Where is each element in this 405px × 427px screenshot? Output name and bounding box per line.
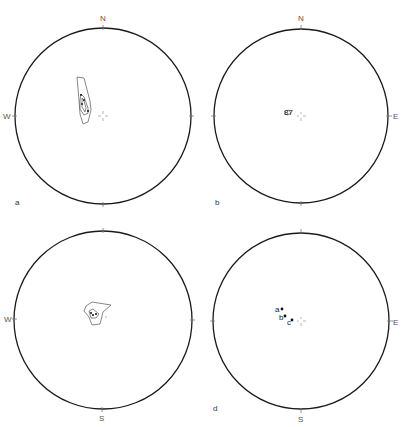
primitive-circle (15, 28, 191, 204)
contour-polygons (84, 302, 111, 325)
primitive-circle (214, 29, 388, 203)
point-b (284, 315, 287, 318)
west-label: W (3, 112, 11, 121)
data-points (90, 312, 97, 316)
stereonet-panel-c: W S (4, 228, 195, 423)
point-label-c: c (287, 318, 291, 327)
point-a (281, 308, 284, 311)
panel-label-b: b (215, 198, 220, 207)
south-label: S (99, 414, 104, 423)
east-label: E (393, 112, 398, 121)
north-label: N (298, 14, 304, 23)
stereonet-figure: N W a N E (0, 0, 405, 427)
panel-label-a: a (15, 198, 20, 207)
cluster-annotation: 87 (284, 108, 293, 117)
center-cross (297, 317, 306, 326)
center-cross (98, 111, 108, 121)
center-cross (297, 112, 306, 121)
panel-label-d: d (213, 404, 217, 413)
east-label: E (393, 318, 398, 327)
primitive-circle (213, 233, 389, 409)
north-label: N (100, 14, 106, 23)
stereonet-panel-a: N W a (3, 14, 194, 207)
point-c (291, 319, 294, 322)
west-label: W (4, 315, 12, 324)
point-label-b: b (279, 313, 284, 322)
south-label: S (298, 415, 303, 424)
primitive-circle (14, 231, 192, 409)
stereonet-panel-b: N E 87 b (211, 14, 398, 207)
stereonet-panel-d: E S a b c d (210, 229, 398, 424)
